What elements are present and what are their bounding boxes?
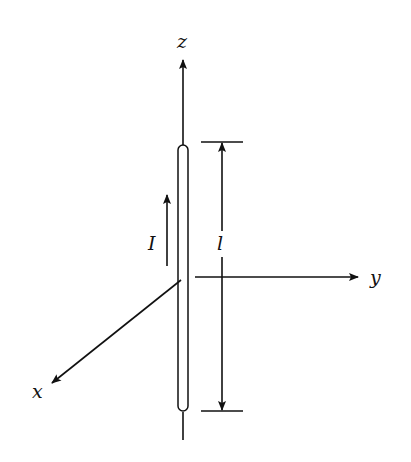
- current-arrow: I: [147, 195, 167, 266]
- current-label: I: [147, 232, 156, 254]
- z-axis-label: z: [176, 30, 188, 52]
- dipole-wire: [178, 145, 188, 411]
- length-label: l: [217, 232, 223, 254]
- x-axis: x: [32, 280, 181, 402]
- y-axis: y: [195, 266, 381, 288]
- y-axis-label: y: [369, 266, 381, 288]
- x-axis-label: x: [32, 380, 43, 402]
- dipole-diagram: z y x I l: [0, 0, 411, 462]
